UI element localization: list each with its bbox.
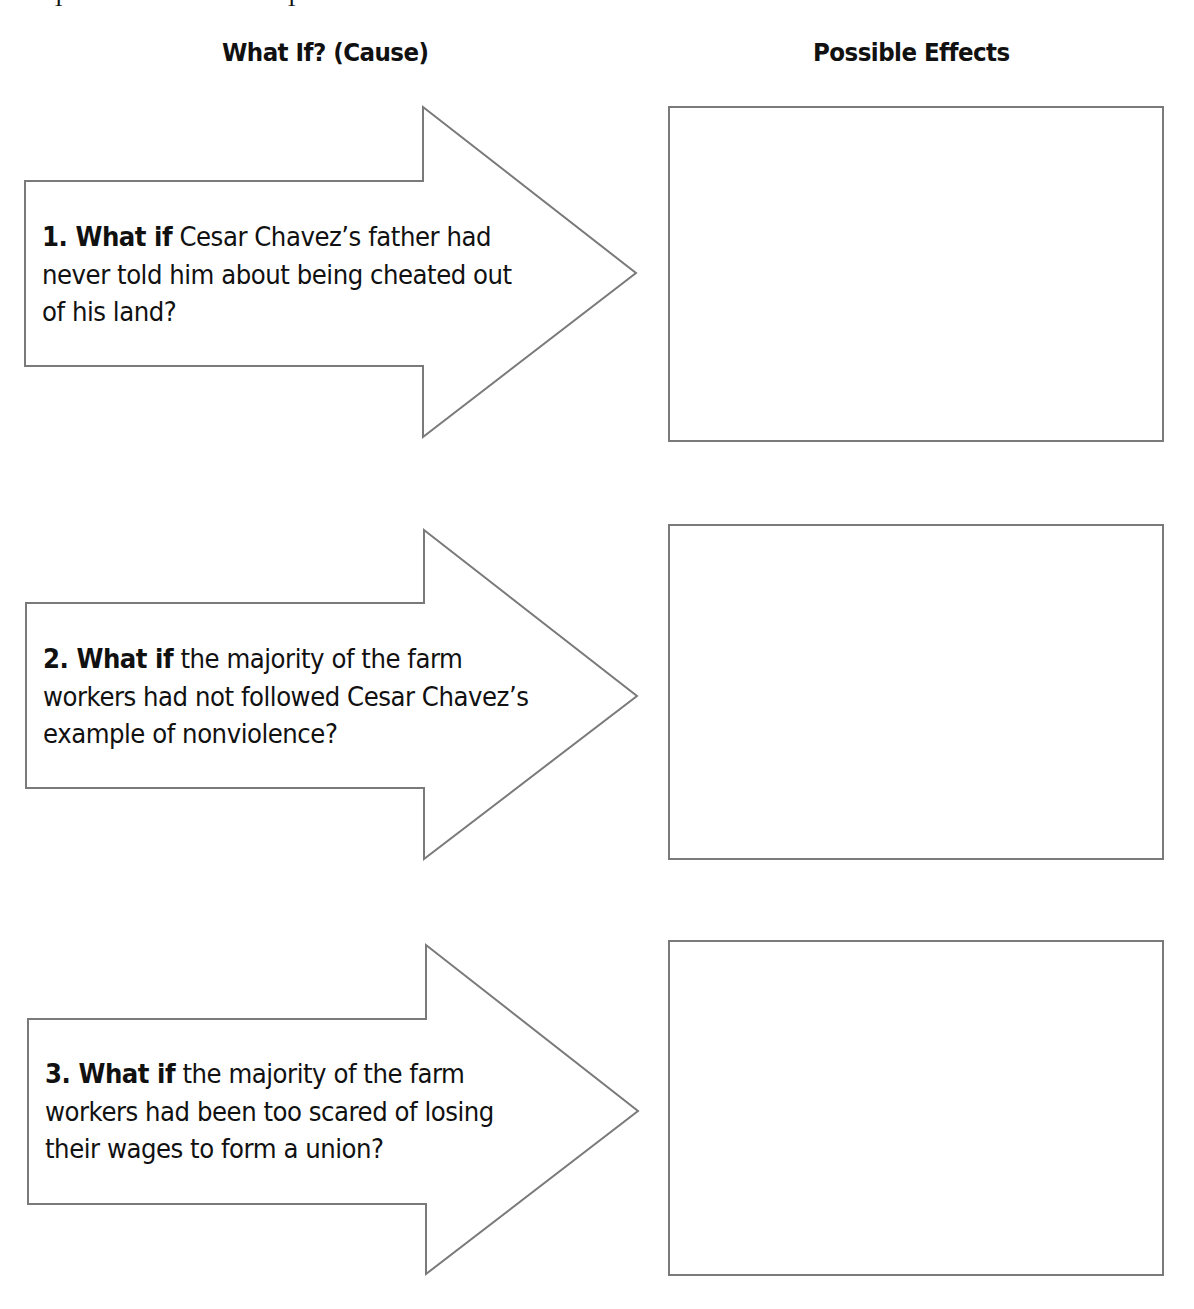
effect-answer-box-3[interactable]	[668, 940, 1164, 1276]
question-number-label: 2. What if	[43, 644, 173, 674]
cause-column-header: What If? (Cause)	[222, 38, 428, 67]
effect-answer-box-1[interactable]	[668, 106, 1164, 442]
effect-answer-box-2[interactable]	[668, 524, 1164, 860]
cut-off-instructions-text: TT	[0, 0, 1194, 6]
question-number-label: 3. What if	[45, 1059, 175, 1089]
cause-question-1: 1. What if Cesar Chavez’s father had nev…	[42, 219, 531, 332]
effects-column-header: Possible Effects	[813, 38, 1010, 67]
cause-question-3: 3. What if the majority of the farm work…	[45, 1056, 534, 1169]
cause-arrow-3: 3. What if the majority of the farm work…	[0, 935, 660, 1295]
question-number-label: 1. What if	[42, 222, 172, 252]
cause-arrow-2: 2. What if the majority of the farm work…	[0, 520, 660, 880]
cause-arrow-1: 1. What if Cesar Chavez’s father had nev…	[0, 100, 660, 460]
cause-question-2: 2. What if the majority of the farm work…	[43, 641, 532, 754]
